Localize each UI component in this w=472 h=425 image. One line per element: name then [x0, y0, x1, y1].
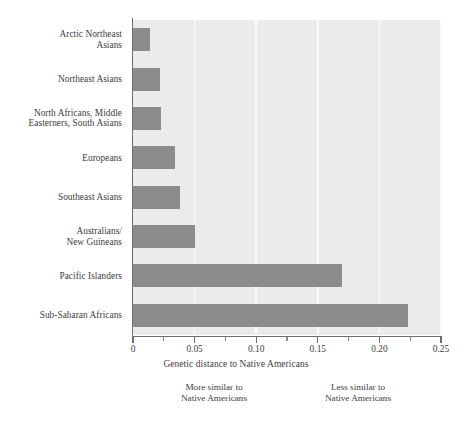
annotation-less-similar-line1: Less similar to: [310, 382, 406, 393]
x-tick-minor: [410, 337, 411, 341]
x-tick-minor: [348, 337, 349, 341]
x-tick-major: [132, 337, 133, 343]
category-label-line: Southeast Asians: [0, 192, 122, 203]
bar: [133, 225, 195, 248]
bar-chart-figure: Arctic NortheastAsiansNortheast AsiansNo…: [0, 0, 472, 425]
bar: [133, 68, 160, 91]
category-axis-labels: Arctic NortheastAsiansNortheast AsiansNo…: [0, 20, 128, 335]
category-label: Northeast Asians: [0, 74, 122, 85]
annotation-more-similar-line1: More similar to: [166, 382, 262, 393]
category-label-line: Northeast Asians: [0, 74, 122, 85]
annotation-more-similar: More similar to Native Americans: [166, 382, 262, 404]
y-axis-line: [132, 18, 133, 337]
annotation-more-similar-line2: Native Americans: [166, 393, 262, 404]
plot-area: [133, 20, 441, 335]
category-label-line: Arctic Northeast: [0, 29, 122, 40]
x-tick-label: 0.05: [186, 344, 202, 354]
gridline: [194, 20, 196, 335]
annotation-less-similar-line2: Native Americans: [310, 393, 406, 404]
category-label: Europeans: [0, 153, 122, 164]
category-label: Southeast Asians: [0, 192, 122, 203]
bar: [133, 107, 161, 130]
category-label-line: Pacific Islanders: [0, 271, 122, 282]
x-tick-label: 0: [131, 344, 136, 354]
category-label: North Africans, MiddleEasterners, South …: [0, 108, 122, 129]
category-label-line: North Africans, Middle: [0, 108, 122, 119]
x-tick-label: 0.20: [371, 344, 387, 354]
similarity-annotation: More similar to Native Americans Less si…: [0, 382, 472, 414]
category-label: Pacific Islanders: [0, 271, 122, 282]
category-label-line: New Guineans: [0, 237, 122, 248]
x-tick-major: [379, 337, 380, 343]
bar: [133, 264, 342, 287]
bar: [133, 28, 150, 51]
x-tick-major: [256, 337, 257, 343]
x-tick-label: 0.10: [248, 344, 264, 354]
category-label-line: Australians/: [0, 226, 122, 237]
x-tick-minor: [163, 337, 164, 341]
bar: [133, 146, 175, 169]
category-label: Australians/New Guineans: [0, 226, 122, 247]
x-tick-minor: [286, 337, 287, 341]
category-label: Sub-Saharan Africans: [0, 310, 122, 321]
category-label-line: Asians: [0, 40, 122, 51]
x-tick-label: 0.25: [433, 344, 449, 354]
x-tick-major: [440, 337, 441, 343]
gridline: [317, 20, 319, 335]
gridline: [379, 20, 381, 335]
category-label-line: Europeans: [0, 153, 122, 164]
category-label-line: Sub-Saharan Africans: [0, 310, 122, 321]
category-label: Arctic NortheastAsians: [0, 29, 122, 50]
x-tick-major: [317, 337, 318, 343]
category-label-line: Easterners, South Asians: [0, 118, 122, 129]
x-tick-major: [194, 337, 195, 343]
bar: [133, 304, 408, 327]
gridline: [255, 20, 257, 335]
gridline: [440, 20, 442, 335]
x-tick-minor: [225, 337, 226, 341]
annotation-less-similar: Less similar to Native Americans: [310, 382, 406, 404]
x-axis-title: Genetic distance to Native Americans: [0, 359, 472, 369]
x-tick-label: 0.15: [310, 344, 326, 354]
bar: [133, 186, 180, 209]
